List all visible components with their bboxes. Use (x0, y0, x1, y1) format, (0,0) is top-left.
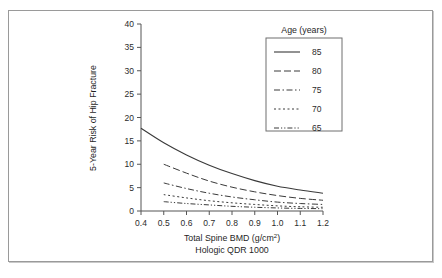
x-axis-title: Total Spine BMD (g/cm2) (184, 233, 280, 243)
y-tick-label: 15 (125, 136, 135, 146)
y-tick-label: 30 (125, 66, 135, 76)
y-tick-label: 20 (125, 113, 135, 123)
y-tick-label: 5 (129, 183, 134, 193)
x-axis-ticks (141, 211, 323, 215)
figure-container: 0510152025303540 0.40.50.60.70.80.91.01.… (0, 0, 442, 278)
y-axis-ticks (137, 24, 141, 211)
x-tick-label: 1.1 (294, 218, 306, 228)
x-tick-label: 0.9 (249, 218, 261, 228)
x-axis-title-close: ) (277, 233, 280, 243)
curve-age-70 (164, 195, 323, 208)
y-tick-label: 0 (129, 206, 134, 216)
curve-age-75 (164, 183, 323, 205)
curve-age-65 (164, 202, 323, 209)
plot-wrapper: 0510152025303540 0.40.50.60.70.80.91.01.… (0, 0, 442, 278)
legend-label-75: 75 (312, 85, 322, 95)
y-axis-tick-labels: 0510152025303540 (125, 19, 135, 216)
x-tick-label: 0.4 (135, 218, 147, 228)
x-tick-label: 0.6 (181, 218, 193, 228)
curve-age-85 (141, 128, 323, 193)
x-axis-tick-labels: 0.40.50.60.70.80.91.01.11.2 (135, 218, 329, 228)
y-tick-label: 35 (125, 42, 135, 52)
y-tick-label: 10 (125, 159, 135, 169)
x-tick-label: 1.2 (317, 218, 329, 228)
y-tick-label: 40 (125, 19, 135, 29)
y-axis-title: 5-Year Risk of Hip Fracture (88, 65, 98, 171)
x-tick-label: 0.8 (226, 218, 238, 228)
legend-title: Age (years) (281, 25, 327, 35)
x-tick-label: 0.5 (158, 218, 170, 228)
x-axis-subtitle: Hologic QDR 1000 (195, 245, 268, 255)
legend: Age (years) 8580757065 (266, 25, 342, 133)
curve-age-80 (164, 164, 323, 200)
legend-label-80: 80 (312, 66, 322, 76)
x-axis-title-main: Total Spine BMD (g/cm (184, 233, 274, 243)
y-tick-label: 25 (125, 89, 135, 99)
x-tick-label: 1.0 (272, 218, 284, 228)
legend-label-70: 70 (312, 104, 322, 114)
x-tick-label: 0.7 (203, 218, 215, 228)
legend-label-65: 65 (312, 123, 322, 133)
data-curves-group (141, 128, 323, 208)
legend-label-85: 85 (312, 47, 322, 57)
hip-fracture-risk-chart: 0510152025303540 0.40.50.60.70.80.91.01.… (0, 0, 442, 278)
